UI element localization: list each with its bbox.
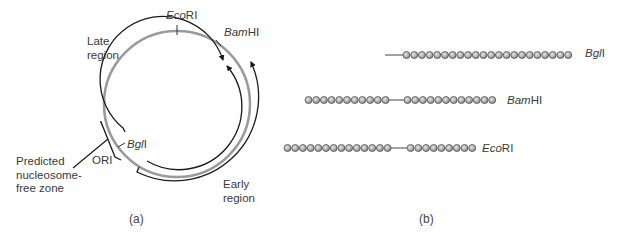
bamhi-roman: HI (248, 26, 260, 38)
nucleosome-free-zone-label: Predicted nucleosome- free zone (16, 155, 82, 196)
nucleosome-bead (403, 52, 410, 59)
nucleosome-bead (407, 145, 414, 152)
row-ecori-roman: RI (502, 142, 514, 154)
nucleosome-bead (434, 52, 441, 59)
bamhi-italic: Bam (224, 26, 248, 38)
nucleosome-bead (338, 145, 345, 152)
row-bamhi-italic: Bam (507, 94, 531, 106)
bgli-label: BglI (127, 138, 147, 152)
nucleosome-bead (472, 52, 479, 59)
nucleosome-bead (299, 145, 306, 152)
nucleosome-bead (469, 145, 476, 152)
nucleosome-row (385, 52, 572, 59)
nucleosome-bead (412, 97, 419, 104)
ecori-italic: Eco (166, 9, 186, 21)
nucleosome-bead (376, 145, 383, 152)
nucleosome-bead (426, 52, 433, 59)
nucleosome-bead (534, 52, 541, 59)
nucleosome-bead (351, 97, 358, 104)
panel-b-label: (b) (419, 212, 434, 226)
nucleosome-bead (549, 52, 556, 59)
nucleosome-bead (382, 97, 389, 104)
ecori-label: EcoRI (166, 9, 197, 23)
nucleosome-bead (369, 145, 376, 152)
nucleosome-bead (450, 97, 457, 104)
nucleosome-bead (305, 97, 312, 104)
nucleosome-bead (323, 145, 330, 152)
nucleosome-bead (330, 145, 337, 152)
nucleosome-bead (503, 52, 510, 59)
nucleosome-bead (423, 145, 430, 152)
nucleosome-bead (430, 145, 437, 152)
nucleosome-bead (315, 145, 322, 152)
late-region-line1: Late (87, 35, 119, 49)
bgli-roman: I (144, 138, 147, 150)
nucleosome-bead (313, 97, 320, 104)
nucleosome-bead (374, 97, 381, 104)
bgli-site-tick (118, 143, 125, 147)
nucleosome-bead (344, 97, 351, 104)
nucleosome-bead (415, 145, 422, 152)
nucleosome-bead (367, 97, 374, 104)
nucleosome-bead (435, 97, 442, 104)
nucleosome-bead (473, 97, 480, 104)
nucleosome-bead (418, 52, 425, 59)
nucleosome-bead (565, 52, 572, 59)
nucleosome-bead (458, 97, 465, 104)
nucleosome-bead (453, 145, 460, 152)
nucleosome-bead (384, 145, 391, 152)
nucleosome-bead (438, 145, 445, 152)
early-region-label: Early region (223, 178, 255, 205)
nucleosome-bead (461, 145, 468, 152)
nucleosome-bead (488, 52, 495, 59)
bamhi-label: BamHI (224, 26, 259, 40)
nucleosome-bead (411, 52, 418, 59)
nucleosome-bead (442, 52, 449, 59)
ecori-roman: RI (186, 9, 198, 21)
nucleosome-bead (457, 52, 464, 59)
row-bgli-italic: Bgl (585, 47, 602, 59)
early-inner-arc (147, 66, 242, 170)
nucleosome-bead (336, 97, 343, 104)
nucleosome-bead (489, 97, 496, 104)
nucleosome-bead (465, 52, 472, 59)
nucleosome-row (305, 97, 496, 104)
nfz-line2: nucleosome- (16, 169, 82, 183)
nucleosome-bead (443, 97, 450, 104)
nucleosome-bead (466, 97, 473, 104)
row-label-bgli: BglI (585, 47, 605, 61)
nucleosome-bead (511, 52, 518, 59)
row-label-ecori: EcoRI (482, 142, 513, 156)
nucleosome-bead (320, 97, 327, 104)
nucleosome-bead (284, 145, 291, 152)
row-bgli-roman: I (602, 47, 605, 59)
nucleosome-bead (519, 52, 526, 59)
nucleosome-row (284, 145, 476, 152)
genome-ring (104, 31, 250, 177)
nucleosome-bead (495, 52, 502, 59)
late-region-line2: region (87, 49, 119, 63)
row-ecori-italic: Eco (482, 142, 502, 154)
nucleosome-bead (481, 97, 488, 104)
nucleosome-bead (404, 97, 411, 104)
nucleosome-bead (427, 97, 434, 104)
nfz-line3: free zone (16, 182, 82, 196)
panel-a-label: (a) (129, 212, 144, 226)
nucleosome-bead (307, 145, 314, 152)
nucleosome-bead (353, 145, 360, 152)
nucleosome-bead (359, 97, 366, 104)
nucleosome-bead (557, 52, 564, 59)
row-bamhi-roman: HI (531, 94, 543, 106)
ori-label: ORI (92, 154, 112, 168)
nucleosome-bead (526, 52, 533, 59)
nucleosome-bead (361, 145, 368, 152)
late-region-label: Late region (87, 35, 119, 62)
bgli-italic: Bgl (127, 138, 144, 150)
nucleosome-bead (542, 52, 549, 59)
early-region-line2: region (223, 192, 255, 206)
nucleosome-bead (480, 52, 487, 59)
early-region-line1: Early (223, 178, 255, 192)
nucleosome-bead (446, 145, 453, 152)
nucleosome-bead (328, 97, 335, 104)
nucleosome-bead (419, 97, 426, 104)
